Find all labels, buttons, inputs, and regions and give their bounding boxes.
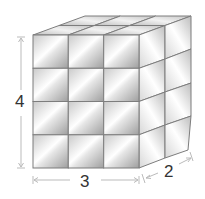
- depth-label: 2: [164, 163, 173, 180]
- height-label: 4: [15, 93, 24, 110]
- prism-drawing: [0, 0, 205, 199]
- width-label: 3: [80, 173, 89, 190]
- right-face: [139, 16, 191, 168]
- front-face: [33, 35, 139, 168]
- cube-diagram: 4 3 2: [0, 0, 205, 199]
